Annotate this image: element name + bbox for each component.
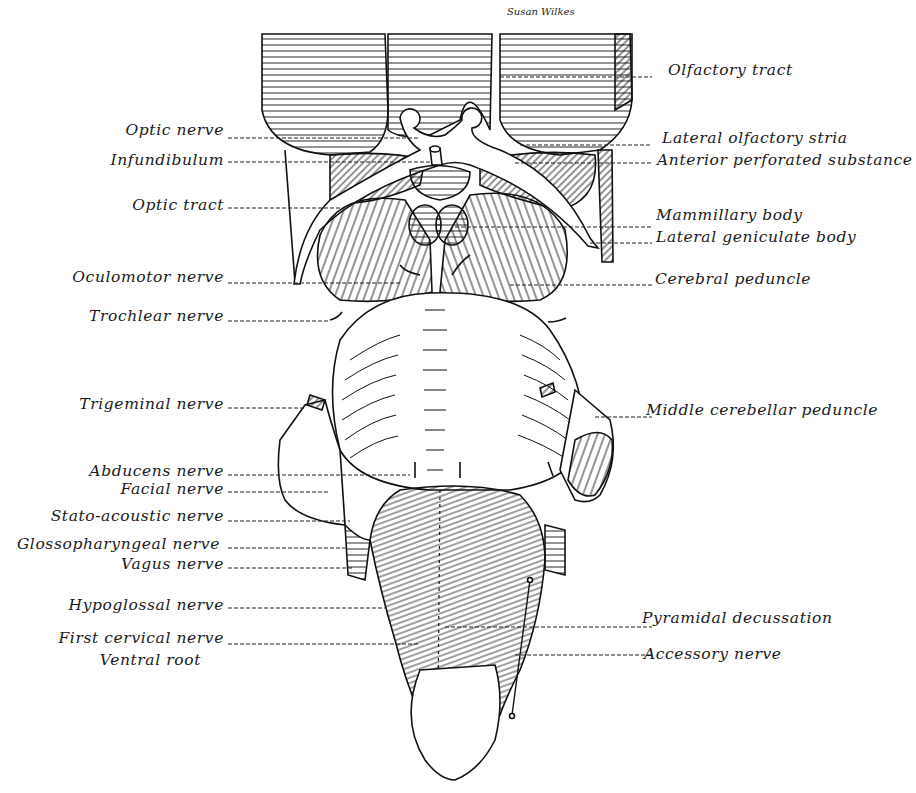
label-middle-cerebellar-peduncle: Middle cerebellar peduncle (646, 401, 878, 419)
right-frontal-lobe (500, 34, 632, 155)
label-oculomotor-nerve: Oculomotor nerve (72, 268, 224, 286)
label-first-cervical-nerve: First cervical nerve (58, 629, 224, 647)
label-facial-nerve: Facial nerve (121, 480, 224, 498)
label-lateral-geniculate-body: Lateral geniculate body (656, 228, 856, 246)
right-olfactory-bulb-edge (615, 34, 632, 110)
label-cerebral-peduncle: Cerebral peduncle (655, 270, 811, 288)
label-abducens-nerve: Abducens nerve (89, 462, 224, 480)
label-olfactory-tract: Olfactory tract (668, 61, 793, 79)
brainstem-diagram: Susan Wilkes Optic nerve Infundibulum Op… (0, 0, 916, 793)
label-vagus-nerve: Vagus nerve (121, 555, 224, 573)
label-ventral-root: Ventral root (100, 651, 201, 669)
label-optic-tract: Optic tract (132, 196, 224, 214)
label-glossopharyngeal-nerve: Glossopharyngeal nerve (17, 535, 220, 553)
label-stato-acoustic-nerve: Stato-acoustic nerve (51, 507, 224, 525)
label-accessory-nerve: Accessory nerve (644, 645, 782, 663)
label-trigeminal-nerve: Trigeminal nerve (79, 395, 224, 413)
artist-signature: Susan Wilkes (507, 6, 575, 17)
label-trochlear-nerve: Trochlear nerve (89, 307, 224, 325)
label-infundibulum: Infundibulum (111, 151, 224, 169)
label-anterior-perforated-substance: Anterior perforated substance (657, 151, 913, 169)
label-optic-nerve: Optic nerve (125, 121, 224, 139)
spinal-cord-cut (411, 665, 500, 780)
label-hypoglossal-nerve: Hypoglossal nerve (69, 596, 224, 614)
label-pyramidal-decussation: Pyramidal decussation (642, 609, 833, 627)
label-lateral-olfactory-stria: Lateral olfactory stria (662, 129, 848, 147)
label-mammillary-body: Mammillary body (656, 206, 803, 224)
left-frontal-lobe (262, 34, 388, 155)
